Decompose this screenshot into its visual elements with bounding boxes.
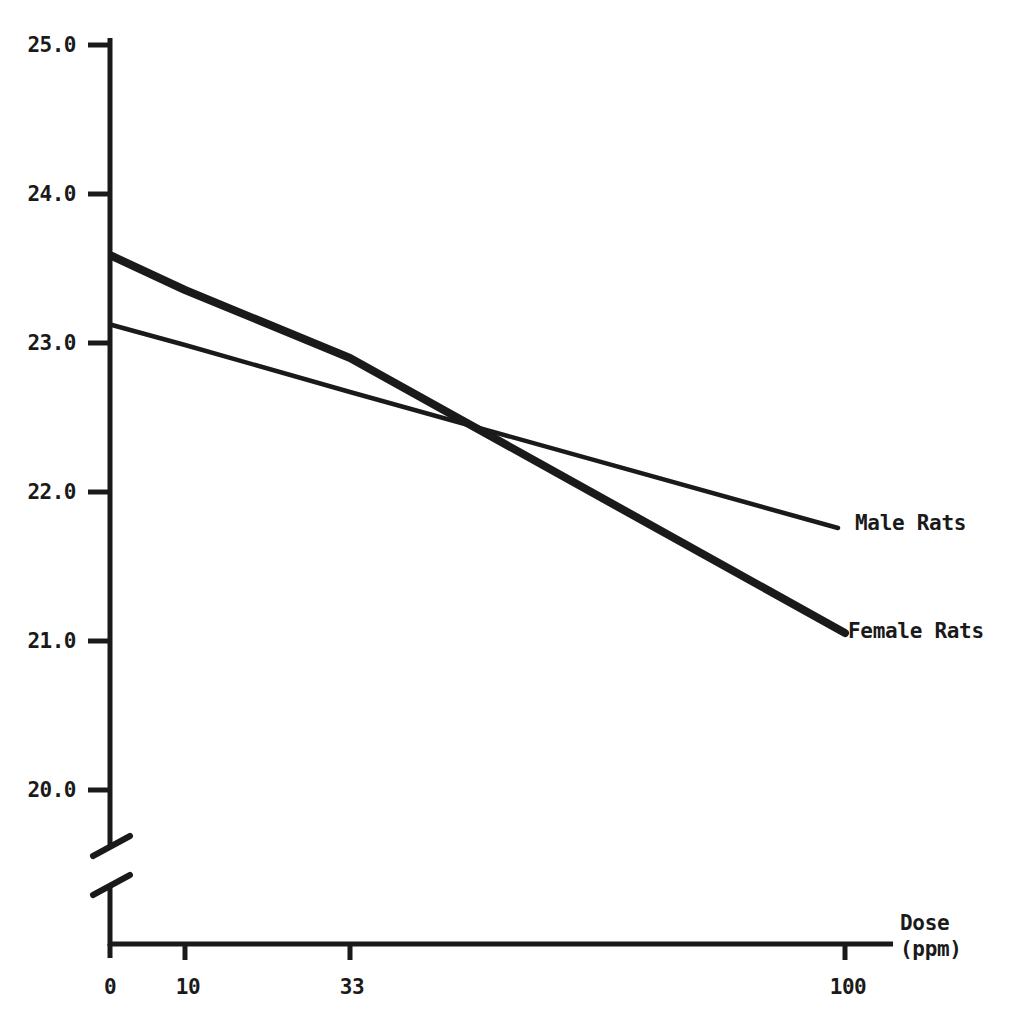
x-tick-label-100: 100 [830,975,866,999]
x-tick-label-10: 10 [176,975,200,999]
x-tick-label-0: 0 [104,975,116,999]
series-line-male-rats [112,325,838,528]
y-tick-label-23: 23.0 [0,331,76,355]
series-label-male-rats: Male Rats [855,511,966,535]
y-tick-label-20: 20.0 [0,778,76,802]
chart-figure: 25.0 24.0 23.0 22.0 21.0 20.0 0 10 33 10… [0,0,1017,1018]
chart-canvas [0,0,1017,1018]
x-tick-label-33: 33 [340,975,364,999]
y-tick-label-21: 21.0 [0,629,76,653]
y-axis-ticks [88,45,110,790]
series-line-female-rats [112,256,845,633]
series-label-female-rats: Female Rats [848,619,984,643]
x-axis-title-line2: (ppm) [900,936,962,962]
x-axis-title: Dose (ppm) [900,910,962,963]
y-tick-label-24: 24.0 [0,182,76,206]
y-tick-label-25: 25.0 [0,33,76,57]
x-axis-title-line1: Dose [900,911,949,935]
y-tick-label-22: 22.0 [0,480,76,504]
